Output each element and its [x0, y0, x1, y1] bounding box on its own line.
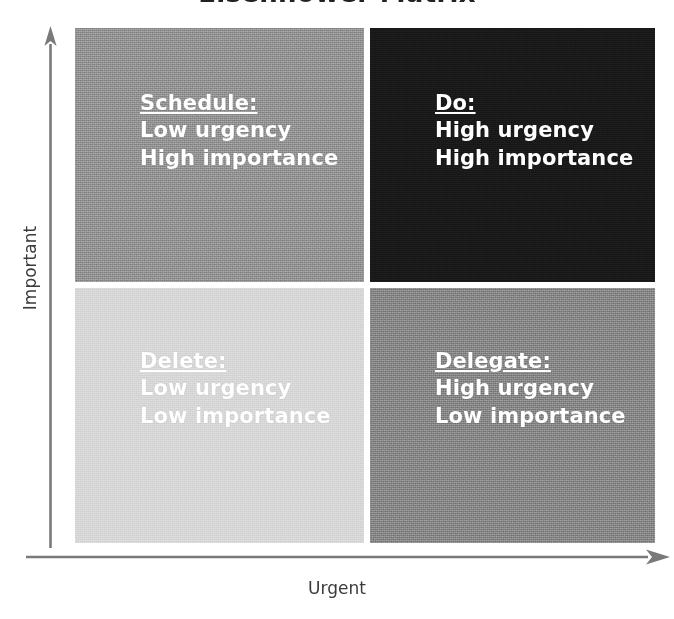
eisenhower-matrix: Schedule: Low urgency High importance Do… — [75, 28, 655, 543]
quadrant-delegate-heading: Delegate: — [435, 348, 626, 375]
quadrant-delete[interactable]: Delete: Low urgency Low importance — [75, 288, 364, 543]
arrow-right-icon — [26, 548, 670, 566]
quadrant-do-text: Do: High urgency High importance — [435, 90, 633, 172]
y-axis — [44, 26, 57, 548]
quadrant-delete-heading: Delete: — [140, 348, 331, 375]
quadrant-delete-line1: Low urgency — [140, 375, 331, 402]
quadrant-do-line1: High urgency — [435, 117, 633, 144]
x-axis — [26, 548, 670, 566]
arrow-up-icon — [44, 26, 57, 548]
quadrant-schedule-text: Schedule: Low urgency High importance — [140, 90, 338, 172]
quadrant-schedule-line2: High importance — [140, 145, 338, 172]
y-axis-label: Important — [20, 218, 40, 318]
quadrant-do[interactable]: Do: High urgency High importance — [370, 28, 655, 282]
quadrant-delegate-line1: High urgency — [435, 375, 626, 402]
diagram-title: Eisenhower Matrix — [0, 0, 674, 8]
quadrant-delete-line2: Low importance — [140, 403, 331, 430]
quadrant-delegate-line2: Low importance — [435, 403, 626, 430]
quadrant-delegate[interactable]: Delegate: High urgency Low importance — [370, 288, 655, 543]
quadrant-schedule[interactable]: Schedule: Low urgency High importance — [75, 28, 364, 282]
quadrant-schedule-line1: Low urgency — [140, 117, 338, 144]
quadrant-delete-text: Delete: Low urgency Low importance — [140, 348, 331, 430]
quadrant-delegate-text: Delegate: High urgency Low importance — [435, 348, 626, 430]
quadrant-do-line2: High importance — [435, 145, 633, 172]
x-axis-label: Urgent — [0, 578, 674, 598]
quadrant-schedule-heading: Schedule: — [140, 90, 338, 117]
quadrant-do-heading: Do: — [435, 90, 633, 117]
